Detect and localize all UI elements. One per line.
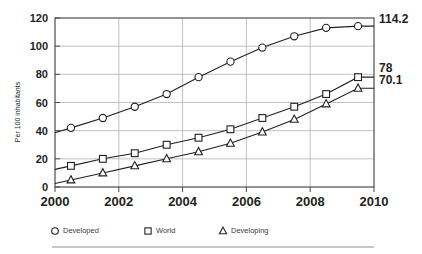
data-point-marker: [99, 114, 106, 121]
triangle-marker-icon: [219, 227, 226, 234]
legend-item-label: Developing: [231, 226, 269, 235]
x-tick-label: 2006: [232, 194, 261, 209]
end-value-labels: 114.2 78 70.1: [379, 12, 409, 87]
y-tick-label: 120: [30, 12, 48, 24]
y-tick-label: 40: [36, 125, 48, 137]
line-chart: 0 20 40 60 80 100 120 2000 2002 2004 200…: [0, 0, 422, 254]
data-point-marker: [67, 124, 74, 131]
data-point-marker: [163, 90, 170, 97]
data-point-marker: [323, 24, 330, 31]
series-developed: [55, 23, 374, 133]
circle-marker-icon: [52, 228, 59, 235]
data-point-marker: [290, 115, 298, 122]
data-point-marker: [323, 91, 330, 98]
data-point-marker: [195, 134, 202, 141]
y-tick-label: 0: [42, 181, 48, 193]
y-tickmarks: [55, 18, 60, 187]
data-point-marker: [131, 103, 138, 110]
data-point-marker: [131, 150, 138, 157]
data-point-marker: [99, 155, 106, 162]
data-point-marker: [259, 115, 266, 122]
y-tick-label: 60: [36, 97, 48, 109]
x-tick-label: 2002: [104, 194, 133, 209]
legend-item-label: World: [156, 226, 175, 235]
data-point-marker: [291, 33, 298, 40]
data-point-marker: [354, 84, 362, 91]
chart-legend: DevelopedWorldDeveloping: [52, 226, 269, 235]
data-point-marker: [163, 141, 170, 148]
y-tick-label: 80: [36, 68, 48, 80]
data-point-marker: [227, 126, 234, 133]
data-point-marker: [68, 162, 75, 169]
data-point-marker: [259, 44, 266, 51]
x-tick-label: 2000: [41, 194, 70, 209]
data-point-marker: [227, 58, 234, 65]
data-point-marker: [195, 74, 202, 81]
y-tick-label: 100: [30, 40, 48, 52]
data-point-marker: [354, 23, 361, 30]
legend-item-developed[interactable]: Developed: [52, 226, 99, 235]
x-tick-label: 2004: [168, 194, 198, 209]
legend-item-developing[interactable]: Developing: [219, 226, 268, 235]
legend-item-label: Developed: [63, 226, 99, 235]
y-axis-tick-labels: 0 20 40 60 80 100 120: [30, 12, 48, 193]
data-point-marker: [291, 103, 298, 110]
y-axis-title: Per 100 inhabitants: [14, 81, 21, 142]
y-tick-label: 20: [36, 153, 48, 165]
x-tick-label: 2010: [360, 194, 389, 209]
end-label-developed: 114.2: [379, 12, 409, 26]
data-point-marker: [322, 100, 330, 107]
x-axis-tick-labels: 2000 2002 2004 2006 2008 2010: [41, 194, 389, 209]
legend-item-world[interactable]: World: [145, 226, 176, 235]
end-label-developing: 70.1: [379, 73, 403, 87]
data-point-marker: [355, 74, 362, 81]
square-marker-icon: [145, 228, 151, 234]
x-tickmarks: [55, 187, 374, 192]
chart-figure: 0 20 40 60 80 100 120 2000 2002 2004 200…: [0, 0, 422, 254]
series-layer: [55, 23, 374, 184]
x-tick-label: 2008: [296, 194, 325, 209]
